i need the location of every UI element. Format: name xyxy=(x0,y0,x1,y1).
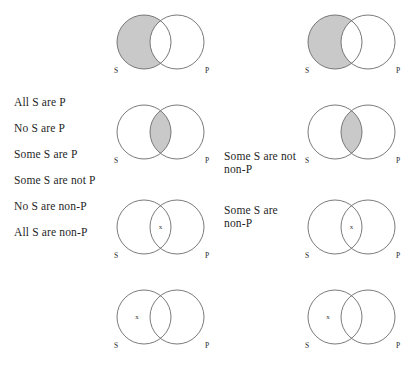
circle-s xyxy=(117,200,171,254)
circle-p-label: P xyxy=(205,156,209,165)
venn-graphic: x xyxy=(114,199,214,261)
proposition-some-s-are-not-non-p: Some S are not non-P xyxy=(224,150,302,176)
left-diagram-2: S P xyxy=(114,104,214,166)
circle-p-label: P xyxy=(396,66,400,75)
x-mark-overlap: x xyxy=(159,223,163,231)
x-mark-s-only: x xyxy=(135,313,139,321)
venn-graphic xyxy=(114,104,214,166)
left-diagram-4: x S P xyxy=(114,289,214,351)
circle-p-label: P xyxy=(205,341,209,350)
venn-graphic: x xyxy=(305,289,405,351)
right-diagram-3: x S P xyxy=(305,199,405,261)
circle-p-label: P xyxy=(396,341,400,350)
circle-p-label: P xyxy=(396,251,400,260)
circle-s-label: S xyxy=(305,251,309,260)
right-proposition-list: Some S are not non-P Some S are non-P xyxy=(224,150,302,258)
circle-s-label: S xyxy=(305,156,309,165)
circle-p xyxy=(150,290,204,344)
circle-p-label: P xyxy=(205,251,209,260)
right-diagram-2: S P xyxy=(305,104,405,166)
right-diagram-1: S P xyxy=(305,14,405,76)
venn-graphic xyxy=(305,104,405,166)
circle-p xyxy=(341,290,395,344)
circle-s-label: S xyxy=(114,251,118,260)
circle-s xyxy=(308,200,362,254)
circle-p-label: P xyxy=(396,156,400,165)
venn-graphic xyxy=(114,14,214,76)
right-diagram-4: x S P xyxy=(305,289,405,351)
venn-graphic xyxy=(305,14,405,76)
venn-chart-sheet: All S are P No S are P Some S are P Some… xyxy=(0,0,414,365)
proposition-some-s-are-not-p: Some S are not P xyxy=(14,174,139,187)
circle-s-label: S xyxy=(114,156,118,165)
circle-s-label: S xyxy=(305,341,309,350)
left-diagram-3: x S P xyxy=(114,199,214,261)
circle-s xyxy=(308,290,362,344)
circle-s-label: S xyxy=(305,66,309,75)
x-mark-s-only: x xyxy=(326,313,330,321)
left-diagram-1: S P xyxy=(114,14,214,76)
circle-p-label: P xyxy=(205,66,209,75)
x-mark-overlap: x xyxy=(350,223,354,231)
venn-graphic: x xyxy=(305,199,405,261)
venn-graphic: x xyxy=(114,289,214,351)
circle-s-label: S xyxy=(114,341,118,350)
circle-s xyxy=(117,290,171,344)
circle-s-label: S xyxy=(114,66,118,75)
proposition-some-s-are-non-p: Some S are non-P xyxy=(224,204,302,230)
